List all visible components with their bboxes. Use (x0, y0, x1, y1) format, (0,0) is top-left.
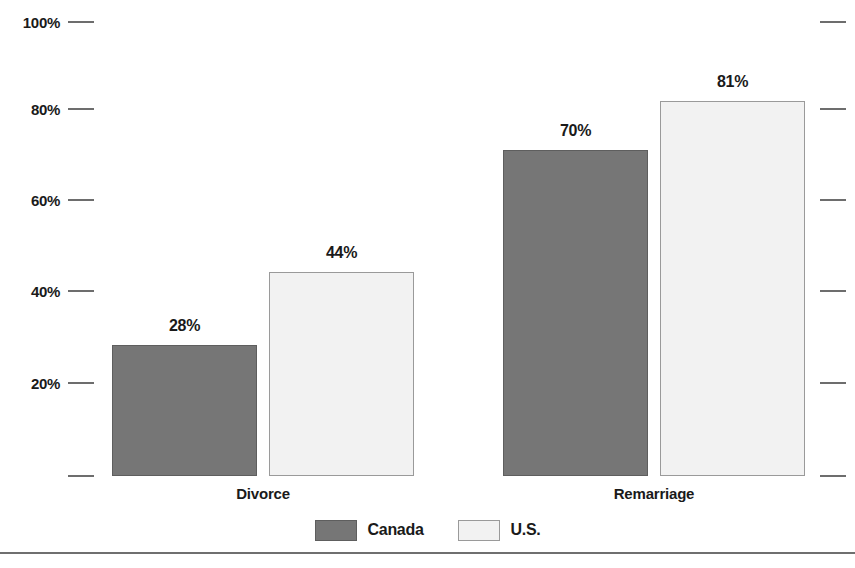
chart-legend: Canada U.S. (0, 515, 855, 545)
y-axis-tick-right-0 (820, 475, 846, 477)
y-axis-tick-20 (68, 382, 94, 384)
y-axis-tick-40 (68, 290, 94, 292)
bottom-divider (0, 552, 855, 554)
bar-chart: 100% 80% 60% 40% 20% 28% 44% Divorce 70%… (0, 0, 855, 568)
bar-value-remarriage-canada: 70% (503, 122, 648, 140)
bar-remarriage-canada[interactable] (503, 150, 648, 476)
y-axis-label-80: 80% (31, 101, 60, 118)
legend-item-us[interactable]: U.S. (458, 520, 541, 541)
y-axis-label-60: 60% (31, 192, 60, 209)
y-axis-tick-right-60 (820, 199, 846, 201)
x-axis-label-remarriage: Remarriage (503, 485, 805, 502)
y-axis-tick-0 (68, 475, 94, 477)
y-axis-tick-60 (68, 199, 94, 201)
y-axis-label-40: 40% (31, 283, 60, 300)
y-axis-tick-right-20 (820, 382, 846, 384)
x-axis-label-divorce: Divorce (112, 485, 414, 502)
legend-item-canada[interactable]: Canada (315, 520, 424, 541)
y-axis-tick-right-80 (820, 108, 846, 110)
y-axis-label-100: 100% (23, 14, 60, 31)
legend-swatch-canada-icon (315, 520, 357, 541)
legend-label-canada: Canada (368, 521, 424, 539)
y-axis-label-20: 20% (31, 375, 60, 392)
bar-value-divorce-us: 44% (269, 244, 414, 262)
bar-divorce-us[interactable] (269, 272, 414, 476)
plot-area: 100% 80% 60% 40% 20% 28% 44% Divorce 70%… (0, 0, 855, 500)
bar-value-remarriage-us: 81% (660, 73, 805, 91)
y-axis-tick-right-40 (820, 290, 846, 292)
y-axis-tick-100 (68, 21, 94, 23)
legend-swatch-us-icon (458, 520, 500, 541)
bar-divorce-canada[interactable] (112, 345, 257, 476)
y-axis-tick-80 (68, 108, 94, 110)
y-axis-tick-right-100 (820, 21, 846, 23)
bar-value-divorce-canada: 28% (112, 317, 257, 335)
legend-label-us: U.S. (511, 521, 541, 539)
bar-remarriage-us[interactable] (660, 101, 805, 476)
